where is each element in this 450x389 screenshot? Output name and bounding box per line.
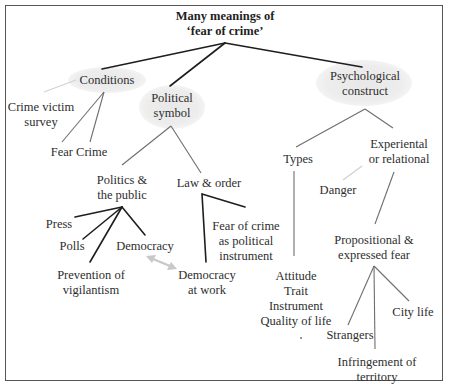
link-political-politics: [122, 126, 171, 165]
diagram-links: [0, 0, 450, 389]
prevention-line-1: Prevention of: [57, 268, 125, 283]
fear-crime-label: Fear Crime: [51, 145, 108, 159]
node-conditions: Conditions: [80, 73, 135, 88]
node-propositional-expressed-fear: Propositional & expressed fear: [334, 233, 414, 263]
fear-instrument-line-1: Fear of crime: [212, 219, 279, 234]
node-psychological-construct: Psychological construct: [330, 69, 400, 99]
propositional-line-1: Propositional &: [334, 233, 414, 248]
political-line-2: symbol: [151, 106, 193, 121]
types-label: Types: [283, 152, 313, 166]
link-psych-experiental: [365, 109, 393, 128]
link-propositional-city: [374, 266, 409, 301]
press-label: Press: [46, 217, 72, 231]
link-law-fear-instrument: [202, 194, 245, 207]
node-conditions-label: Conditions: [80, 73, 135, 87]
node-law-order: Law & order: [177, 176, 242, 191]
node-fear-crime: Fear Crime: [51, 145, 108, 160]
link-conditions-survey: [44, 80, 76, 92]
diagram-title: Many meanings of ‘fear of crime’: [176, 9, 275, 39]
node-polls: Polls: [59, 239, 84, 254]
democracy-label: Democracy: [116, 239, 174, 253]
node-politics-public: Politics & the public: [97, 173, 147, 203]
node-political-symbol: Political symbol: [151, 91, 193, 121]
node-types: Types: [283, 152, 313, 167]
experiental-line-1: Experiental: [369, 137, 430, 152]
strangers-label: Strangers: [326, 328, 373, 342]
prevention-line-2: vigilantism: [57, 283, 125, 298]
node-democracy-at-work: Democracy at work: [178, 268, 236, 298]
propositional-line-2: expressed fear: [334, 248, 414, 263]
law-order-label: Law & order: [177, 176, 242, 190]
infringement-line-1: Infringement of: [338, 355, 417, 370]
link-root-psychological: [225, 43, 362, 67]
fear-instrument-line-3: instrument: [212, 249, 279, 264]
fear-instrument-line-2: as political: [212, 234, 279, 249]
democracy-work-line-2: at work: [178, 283, 236, 298]
city-life-label: City life: [392, 305, 433, 319]
politics-line-2: the public: [97, 188, 147, 203]
democracy-work-line-1: Democracy: [178, 268, 236, 283]
types-quality-of-life: Quality of life: [261, 314, 332, 329]
node-city-life: City life: [392, 305, 433, 320]
infringement-line-2: territory: [338, 370, 417, 385]
link-political-law: [171, 126, 201, 173]
node-prevention-vigilantism: Prevention of vigilantism: [57, 268, 125, 298]
link-psych-types: [296, 109, 365, 147]
node-press: Press: [46, 217, 72, 232]
node-infringement-territory: Infringement of territory: [338, 355, 417, 385]
psych-line-2: construct: [330, 84, 400, 99]
node-experiental-relational: Experiental or relational: [369, 137, 430, 167]
link-law-democracy-work: [202, 194, 206, 262]
link-experiental-danger: [343, 166, 362, 180]
node-democracy: Democracy: [116, 239, 174, 254]
crime-victim-line-1: Crime victim: [8, 100, 74, 115]
political-line-1: Political: [151, 91, 193, 106]
types-attitude: Attitude: [261, 269, 332, 284]
danger-label: Danger: [320, 183, 357, 197]
link-experiental-propositional: [375, 172, 394, 224]
node-strangers: Strangers: [326, 328, 373, 343]
link-root-conditions: [102, 43, 225, 69]
types-trait: Trait: [261, 284, 332, 299]
types-instrument: Instrument: [261, 299, 332, 314]
link-politics-democracy: [122, 207, 145, 235]
crime-victim-line-2: survey: [8, 115, 74, 130]
title-line-1: Many meanings of: [176, 9, 275, 24]
node-danger: Danger: [320, 183, 357, 198]
stray-dot: [300, 337, 302, 339]
link-propositional-infringement: [374, 266, 375, 349]
node-fear-political-instrument: Fear of crime as political instrument: [212, 219, 279, 264]
link-propositional-strangers: [348, 266, 374, 325]
psych-line-1: Psychological: [330, 69, 400, 84]
node-crime-victim-survey: Crime victim survey: [8, 100, 74, 130]
title-line-2: ‘fear of crime’: [176, 24, 275, 39]
node-types-list: Attitude Trait Instrument Quality of lif…: [261, 269, 332, 329]
double-arrow-icon: [146, 255, 177, 270]
polls-label: Polls: [59, 239, 84, 253]
politics-line-1: Politics &: [97, 173, 147, 188]
experiental-line-2: or relational: [369, 152, 430, 167]
